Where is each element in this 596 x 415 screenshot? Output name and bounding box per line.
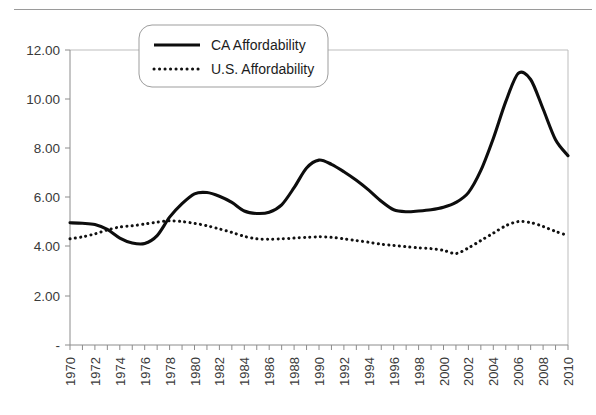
series-line-ca-affordability: [70, 72, 568, 244]
series-line-us-affordability: [70, 221, 568, 254]
x-tick-label-1972: 1972: [88, 357, 103, 386]
x-tick-label-1970: 1970: [63, 357, 78, 386]
y-tick-label-8: 8.00: [34, 141, 60, 156]
x-tick-label-1986: 1986: [262, 357, 277, 386]
legend-background: [139, 25, 328, 87]
x-tick-label-1990: 1990: [312, 357, 327, 386]
x-tick-label-2002: 2002: [461, 357, 476, 386]
x-tick-label-2004: 2004: [486, 357, 501, 386]
series-group: [70, 72, 568, 253]
x-tick-label-1976: 1976: [138, 357, 153, 386]
x-tick-label-1992: 1992: [337, 357, 352, 386]
x-tick-label-1996: 1996: [387, 357, 402, 386]
x-tick-label-1982: 1982: [212, 357, 227, 386]
legend-label-us: U.S. Affordability: [211, 61, 314, 77]
y-tick-label-2: 2.00: [34, 289, 60, 304]
plot-frame-group: [70, 50, 568, 345]
x-tick-label-2000: 2000: [437, 357, 452, 386]
x-tick-label-2008: 2008: [536, 357, 551, 386]
y-tick-label-10: 10.00: [26, 92, 60, 107]
x-tick-labels: 1970197219741976197819801982198419861988…: [63, 357, 576, 386]
y-tick-label-12: 12.00: [26, 43, 60, 58]
x-tick-label-1978: 1978: [163, 357, 178, 386]
legend: CA Affordability U.S. Affordability: [139, 25, 328, 87]
x-tick-label-1988: 1988: [287, 357, 302, 386]
x-tick-label-1974: 1974: [113, 357, 128, 386]
y-tick-label-0: -: [56, 338, 61, 353]
x-tick-label-1980: 1980: [188, 357, 203, 386]
y-tick-label-6: 6.00: [34, 190, 60, 205]
x-axis-group: 1970197219741976197819801982198419861988…: [63, 345, 576, 386]
x-tick-label-1994: 1994: [362, 357, 377, 386]
y-tick-label-4: 4.00: [34, 239, 60, 254]
chart-canvas: 12.00 10.00 8.00 6.00 4.00 2.00 - 197019…: [0, 0, 596, 415]
legend-label-ca: CA Affordability: [211, 37, 306, 53]
affordability-chart: 12.00 10.00 8.00 6.00 4.00 2.00 - 197019…: [0, 0, 596, 415]
x-tick-marks: [70, 345, 568, 350]
y-tick-marks: [65, 50, 70, 345]
x-tick-label-1984: 1984: [237, 357, 252, 386]
x-tick-label-2010: 2010: [561, 357, 576, 386]
y-axis-group: 12.00 10.00 8.00 6.00 4.00 2.00 -: [26, 43, 70, 353]
x-tick-label-1998: 1998: [412, 357, 427, 386]
x-tick-label-2006: 2006: [511, 357, 526, 386]
